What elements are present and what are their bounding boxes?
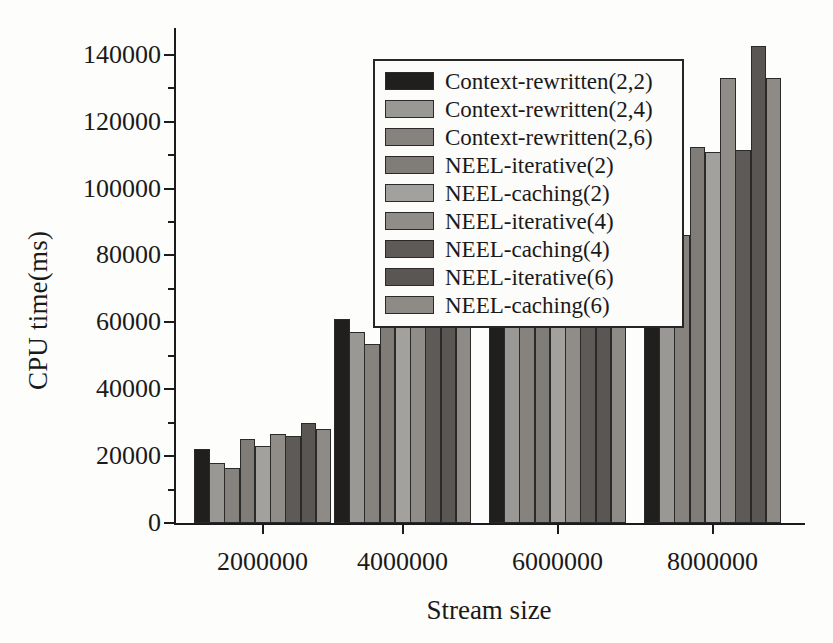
y-tick-major xyxy=(164,522,174,524)
bar xyxy=(255,446,271,523)
y-tick-minor xyxy=(168,422,174,424)
bar xyxy=(395,312,411,523)
bar xyxy=(316,429,332,523)
y-tick-minor xyxy=(168,288,174,290)
bar xyxy=(425,307,441,523)
y-tick-minor xyxy=(168,489,174,491)
x-tick-label: 4000000 xyxy=(357,547,448,577)
bar-chart-figure: CPU time(ms) Stream size 020000400006000… xyxy=(0,0,833,643)
legend-swatch-icon xyxy=(385,156,434,174)
y-tick-major xyxy=(164,455,174,457)
legend-item[interactable]: NEEL-iterative(4) xyxy=(385,207,674,235)
legend-item[interactable]: NEEL-caching(6) xyxy=(385,291,674,319)
y-tick-label: 100000 xyxy=(83,176,161,202)
legend-swatch-icon xyxy=(385,212,434,230)
bar xyxy=(240,439,256,523)
y-tick-label: 80000 xyxy=(96,242,161,268)
legend-item[interactable]: Context-rewritten(2,2) xyxy=(385,67,674,95)
y-tick-major xyxy=(164,188,174,190)
legend-label: NEEL-caching(2) xyxy=(445,182,610,205)
bar xyxy=(735,150,751,523)
bar xyxy=(285,436,301,523)
legend-swatch-icon xyxy=(385,240,434,258)
x-tick xyxy=(557,523,559,534)
bar-group xyxy=(194,27,331,523)
bar xyxy=(194,449,210,523)
legend-label: NEEL-iterative(6) xyxy=(445,266,614,289)
y-tick-label: 120000 xyxy=(83,109,161,135)
legend-label: NEEL-iterative(2) xyxy=(445,154,614,177)
legend-swatch-icon xyxy=(385,296,434,314)
y-tick-major xyxy=(164,121,174,123)
legend-swatch-icon xyxy=(385,184,434,202)
bar xyxy=(720,78,736,523)
y-tick-minor xyxy=(168,154,174,156)
legend-label: NEEL-caching(6) xyxy=(445,294,610,317)
legend-item[interactable]: NEEL-caching(4) xyxy=(385,235,674,263)
legend-label: Context-rewritten(2,4) xyxy=(445,98,653,121)
y-tick-minor xyxy=(168,221,174,223)
bar xyxy=(301,423,317,523)
bar xyxy=(270,434,286,523)
legend-swatch-icon xyxy=(385,100,434,118)
bar xyxy=(364,344,380,523)
y-tick-label: 0 xyxy=(148,510,161,536)
y-tick-label: 60000 xyxy=(96,309,161,335)
legend-label: Context-rewritten(2,6) xyxy=(445,126,653,149)
bar xyxy=(751,46,767,523)
bar xyxy=(380,302,396,523)
bar xyxy=(224,468,240,523)
x-axis-spine xyxy=(174,523,805,525)
legend-swatch-icon xyxy=(385,72,434,90)
y-tick-label: 140000 xyxy=(83,42,161,68)
bar xyxy=(456,294,472,523)
bar xyxy=(209,463,225,523)
plot-area: 020000400006000080000100000120000140000 … xyxy=(174,28,804,524)
chart-legend: Context-rewritten(2,2)Context-rewritten(… xyxy=(373,59,684,328)
y-axis-title: CPU time(ms) xyxy=(23,196,54,426)
legend-swatch-icon xyxy=(385,128,434,146)
x-tick-label: 8000000 xyxy=(667,547,758,577)
y-axis-spine xyxy=(174,28,176,525)
legend-swatch-icon xyxy=(385,268,434,286)
y-tick-minor xyxy=(168,87,174,89)
legend-label: NEEL-caching(4) xyxy=(445,238,610,261)
y-tick-label: 20000 xyxy=(96,443,161,469)
x-axis-title: Stream size xyxy=(174,595,804,626)
legend-item[interactable]: Context-rewritten(2,6) xyxy=(385,123,674,151)
y-tick-major xyxy=(164,388,174,390)
x-tick xyxy=(712,523,714,534)
y-tick-major xyxy=(164,254,174,256)
legend-label: NEEL-iterative(4) xyxy=(445,210,614,233)
y-tick-minor xyxy=(168,355,174,357)
bar xyxy=(690,147,706,523)
legend-item[interactable]: Context-rewritten(2,4) xyxy=(385,95,674,123)
legend-item[interactable]: NEEL-iterative(2) xyxy=(385,151,674,179)
x-tick xyxy=(262,523,264,534)
bar xyxy=(766,78,782,523)
x-tick-label: 2000000 xyxy=(217,547,308,577)
legend-item[interactable]: NEEL-iterative(6) xyxy=(385,263,674,291)
y-tick-label: 40000 xyxy=(96,376,161,402)
bar xyxy=(705,152,721,523)
legend-label: Context-rewritten(2,2) xyxy=(445,70,653,93)
y-tick-major xyxy=(164,54,174,56)
bar xyxy=(334,319,350,523)
bar xyxy=(349,332,365,523)
legend-item[interactable]: NEEL-caching(2) xyxy=(385,179,674,207)
x-tick-label: 6000000 xyxy=(512,547,603,577)
y-tick-major xyxy=(164,321,174,323)
x-tick xyxy=(402,523,404,534)
